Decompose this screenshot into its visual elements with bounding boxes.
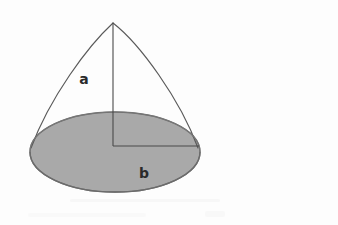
label-b: b <box>139 165 149 181</box>
page-background <box>0 0 338 225</box>
geometry-figure: a b <box>0 0 338 225</box>
label-a: a <box>79 71 88 87</box>
diagram-canvas: a b <box>0 0 338 225</box>
